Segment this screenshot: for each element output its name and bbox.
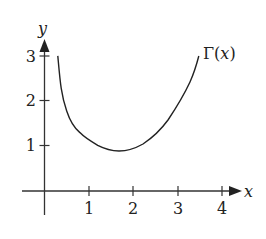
y-axis-arrow-icon xyxy=(40,39,50,52)
x-tick-label: 1 xyxy=(84,199,94,218)
curve-label: Γ(x) xyxy=(203,44,236,63)
x-tick-label: 2 xyxy=(128,199,138,218)
x-axis-label: x xyxy=(244,182,253,201)
y-tick-label: 2 xyxy=(26,91,36,110)
y-tick-label: 3 xyxy=(26,47,36,66)
gamma-function-plot: 1 2 3 4 1 2 3 x y Γ(x) xyxy=(0,0,266,239)
y-axis-label: y xyxy=(37,19,48,38)
x-axis-arrow-icon xyxy=(229,186,242,196)
gamma-curve xyxy=(58,56,199,151)
x-tick-label: 3 xyxy=(173,199,183,218)
x-tick-label: 4 xyxy=(217,199,227,218)
y-tick-label: 1 xyxy=(26,136,36,155)
